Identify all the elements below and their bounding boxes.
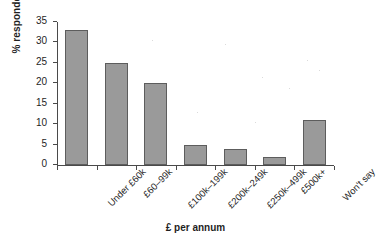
scan-speckle (262, 77, 263, 78)
y-axis-title: % respondents (11, 0, 25, 67)
y-axis-tick: 20 (53, 82, 57, 83)
scan-speckle (319, 70, 320, 71)
x-axis-tick-labels: Under £60k£60–99k£100k–199k£200k–249k£25… (57, 166, 347, 216)
x-axis-tick-label: £200k–249k (225, 166, 269, 210)
y-axis-tick: 5 (53, 144, 57, 145)
x-axis-title: £ per annum (57, 222, 334, 233)
y-axis-tick-label: 10 (36, 116, 47, 129)
bar (105, 63, 128, 165)
scan-speckle (152, 40, 153, 41)
y-axis-tick-label: 30 (36, 34, 47, 47)
y-axis-tick: 25 (53, 62, 57, 63)
y-axis-line (57, 22, 58, 166)
y-axis-tick-label: 35 (36, 14, 47, 27)
y-axis-tick-label: 0 (41, 157, 47, 170)
scan-speckle (197, 112, 198, 113)
x-axis-tick-label: £100k–199k (185, 166, 229, 210)
scan-speckle (289, 88, 290, 89)
y-axis-tick: 15 (53, 103, 57, 104)
y-axis-tick: 35 (53, 21, 57, 22)
x-axis-tick-label: Under £60k (105, 166, 148, 209)
y-axis-tick-label: 15 (36, 96, 47, 109)
x-axis-tick-label: Won't say (340, 166, 377, 203)
scan-speckle (307, 60, 308, 61)
y-axis-tick-label: 20 (36, 75, 47, 88)
y-axis-tick: 10 (53, 123, 57, 124)
bar (224, 149, 247, 165)
bar (303, 120, 326, 165)
scan-speckle (225, 44, 226, 45)
bar (144, 83, 167, 165)
y-axis-tick: 0 (53, 164, 57, 165)
scan-speckle (255, 122, 256, 123)
y-axis-tick-label: 5 (41, 137, 47, 150)
bar (263, 157, 286, 165)
bar (65, 30, 88, 165)
bar (184, 145, 207, 165)
y-axis-tick: 30 (53, 41, 57, 42)
plot-area: 05101520253035 (57, 22, 334, 166)
y-axis-tick-label: 25 (36, 55, 47, 68)
